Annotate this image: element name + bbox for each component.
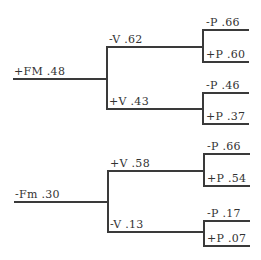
branch-split-line bbox=[202, 92, 204, 124]
leaf-label: -P .17 bbox=[207, 208, 241, 219]
branch-split-line bbox=[202, 29, 204, 62]
branch-split-line bbox=[203, 153, 205, 186]
branch-split-line bbox=[203, 220, 205, 246]
leaf-line bbox=[203, 220, 250, 222]
root-label: +FM .48 bbox=[14, 66, 65, 77]
leaf-line bbox=[202, 61, 249, 63]
root-label: -Fm .30 bbox=[15, 189, 60, 200]
leaf-label: +P .07 bbox=[207, 233, 246, 244]
root-line bbox=[14, 201, 108, 203]
leaf-label: +P .60 bbox=[206, 49, 245, 60]
branch-line bbox=[107, 231, 204, 233]
branch-label: +V .43 bbox=[109, 96, 149, 107]
leaf-line bbox=[202, 92, 249, 94]
root-split-line bbox=[106, 46, 108, 109]
leaf-label: +P .54 bbox=[207, 173, 246, 184]
branch-line bbox=[106, 108, 203, 110]
leaf-line bbox=[203, 185, 250, 187]
leaf-label: -P .46 bbox=[206, 80, 240, 91]
branch-label: -V .62 bbox=[109, 34, 143, 45]
leaf-label: +P .37 bbox=[206, 111, 245, 122]
branch-label: -V .13 bbox=[110, 219, 144, 230]
leaf-label: -P .66 bbox=[206, 17, 240, 28]
leaf-line bbox=[203, 153, 250, 155]
leaf-line bbox=[202, 29, 249, 31]
root-line bbox=[13, 78, 107, 80]
branch-label: +V .58 bbox=[110, 158, 150, 169]
leaf-label: -P .66 bbox=[207, 141, 241, 152]
leaf-line bbox=[203, 245, 250, 247]
branch-line bbox=[106, 46, 203, 48]
root-split-line bbox=[107, 170, 109, 232]
tree-diagram: +FM .48 -V .62 -P .66 +P .60 +V .43 -P .… bbox=[0, 0, 261, 260]
leaf-line bbox=[202, 123, 249, 125]
branch-line bbox=[107, 170, 204, 172]
